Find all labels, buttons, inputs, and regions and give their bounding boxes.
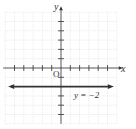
x-axis-label: x [120,63,126,74]
axes [3,6,123,124]
line-equation-label: y = −2 [73,90,100,100]
y-axis-label: y [53,1,59,12]
coordinate-plane: x y O y = −2 [0,0,136,129]
origin-label: O [53,69,60,79]
